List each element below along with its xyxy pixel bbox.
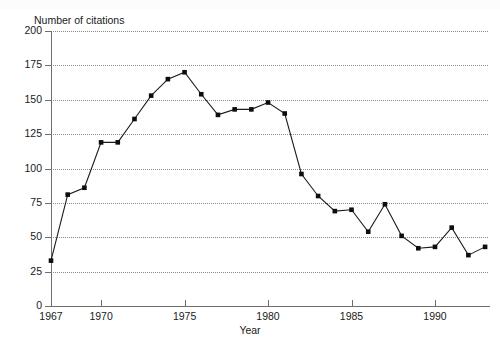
data-point-1978 xyxy=(232,107,237,112)
citations-line-chart: Number of citations 02550751001251501752… xyxy=(0,0,500,346)
data-series-layer xyxy=(0,0,500,346)
data-point-1983 xyxy=(316,194,321,199)
data-point-1969 xyxy=(82,185,87,190)
data-point-1979 xyxy=(249,107,254,112)
data-point-1967 xyxy=(49,258,54,263)
data-point-1980 xyxy=(266,100,271,105)
data-point-1993 xyxy=(483,245,488,250)
data-point-1988 xyxy=(399,234,404,239)
plot-area: 0255075100125150175200 19671970197519801… xyxy=(0,0,500,346)
data-point-1975 xyxy=(182,70,187,75)
data-point-1987 xyxy=(383,202,388,207)
series-markers xyxy=(49,70,488,263)
data-point-1971 xyxy=(115,140,120,145)
data-point-1982 xyxy=(299,172,304,177)
data-point-1991 xyxy=(449,225,454,230)
data-point-1972 xyxy=(132,117,137,122)
data-point-1977 xyxy=(216,113,221,118)
data-point-1986 xyxy=(366,229,371,234)
data-point-1985 xyxy=(349,207,354,212)
data-point-1984 xyxy=(333,209,338,214)
data-point-1974 xyxy=(166,77,171,82)
data-point-1990 xyxy=(433,245,438,250)
data-point-1970 xyxy=(99,140,104,145)
data-point-1981 xyxy=(282,111,287,116)
data-point-1976 xyxy=(199,92,204,97)
data-point-1989 xyxy=(416,246,421,251)
data-point-1973 xyxy=(149,93,154,98)
data-point-1992 xyxy=(466,253,471,258)
x-axis-title: Year xyxy=(0,324,500,336)
data-point-1968 xyxy=(65,192,70,197)
